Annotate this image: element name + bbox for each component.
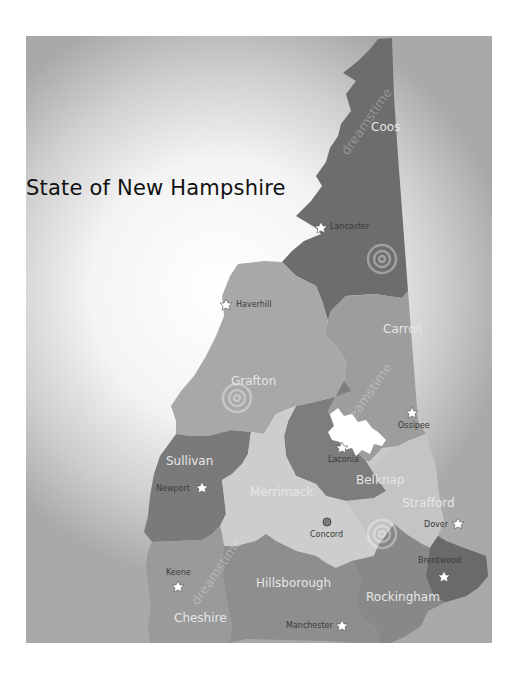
- capital-icon: [323, 518, 331, 526]
- county-label-cheshire: Cheshire: [174, 611, 227, 625]
- county-label-carroll: Carroll: [383, 322, 422, 336]
- county-label-coos: Coos: [371, 120, 400, 134]
- city-label-newport: Newport: [156, 484, 190, 493]
- map-title: State of New Hampshire: [26, 176, 286, 200]
- county-label-grafton: Grafton: [231, 374, 276, 388]
- star-icon: [452, 518, 464, 529]
- county-label-merrimack: Merrimack: [250, 485, 313, 499]
- city-label-concord: Concord: [310, 530, 343, 539]
- county-map: [26, 36, 492, 643]
- county-label-sullivan: Sullivan: [166, 454, 213, 468]
- county-cheshire[interactable]: [146, 526, 232, 643]
- city-label-dover: Dover: [424, 520, 448, 529]
- county-label-belknap: Belknap: [356, 473, 404, 487]
- city-label-laconia: Laconia: [328, 455, 359, 464]
- map-frame: dreamstime dreamstime dreamstime Coos Gr…: [26, 36, 492, 643]
- city-label-ossipee: Ossipee: [398, 421, 430, 430]
- county-label-rockingham: Rockingham: [366, 590, 440, 604]
- city-label-keene: Keene: [166, 568, 191, 577]
- county-label-strafford: Strafford: [402, 496, 455, 510]
- county-label-hillsborough: Hillsborough: [256, 576, 331, 590]
- city-label-manchester: Manchester: [286, 621, 333, 630]
- city-label-haverhill: Haverhill: [236, 300, 271, 309]
- city-label-brentwood: Brentwood: [418, 556, 461, 565]
- city-label-lancaster: Lancaster: [330, 222, 369, 231]
